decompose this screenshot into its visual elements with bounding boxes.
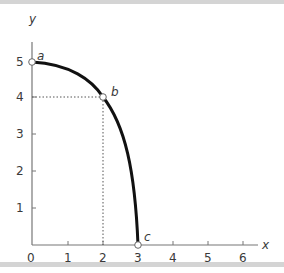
y-axis-label: y xyxy=(28,12,37,26)
svg-text:5: 5 xyxy=(16,55,24,69)
svg-text:3: 3 xyxy=(16,127,24,141)
point-b-label: b xyxy=(111,85,119,99)
curve xyxy=(32,62,138,245)
point-b xyxy=(100,94,107,101)
y-tick-labels: 1 2 3 4 5 xyxy=(16,55,24,215)
point-a xyxy=(29,59,36,66)
svg-text:2: 2 xyxy=(16,164,24,178)
svg-text:1: 1 xyxy=(16,201,24,215)
bottom-border xyxy=(0,262,284,267)
point-c xyxy=(135,242,142,249)
point-a-label: a xyxy=(37,49,44,63)
x-axis-label: x xyxy=(261,238,270,252)
point-c-label: c xyxy=(144,230,151,244)
svg-text:4: 4 xyxy=(16,90,24,104)
chart: 0 1 2 3 4 5 6 1 2 3 4 5 y x a b c xyxy=(0,0,284,273)
